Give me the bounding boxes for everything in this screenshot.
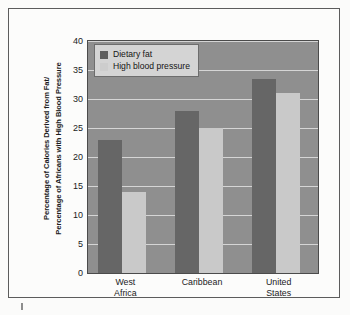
x-axis-label-line: Caribbean xyxy=(164,277,241,288)
x-axis-label-line: States xyxy=(240,288,317,299)
legend-label-dietary-fat: Dietary fat xyxy=(113,50,152,59)
y-tick-label: 30 xyxy=(61,95,83,104)
bar xyxy=(175,111,199,273)
plot-area: Dietary fat High blood pressure xyxy=(87,40,319,274)
y-tick-label: 0 xyxy=(61,269,83,278)
figure-frame: Percentage of Calories Derived from Fat/… xyxy=(8,8,340,298)
legend-item-high-blood-pressure: High blood pressure xyxy=(100,61,190,72)
bar xyxy=(98,140,122,273)
chart-legend: Dietary fat High blood pressure xyxy=(94,44,199,77)
y-tick-label: 25 xyxy=(61,124,83,133)
bar-group xyxy=(252,41,300,273)
chart-screenshot: Percentage of Calories Derived from Fat/… xyxy=(0,0,350,315)
bar xyxy=(199,128,223,273)
y-tick-label: 20 xyxy=(61,153,83,162)
x-axis-category-labels: WestAfricaCaribbeanUnitedStates xyxy=(87,277,319,305)
y-tick-label: 15 xyxy=(61,182,83,191)
bar xyxy=(252,79,276,273)
x-axis-label: Caribbean xyxy=(164,277,241,288)
y-tick-label: 35 xyxy=(61,66,83,75)
y-tick-label: 10 xyxy=(61,211,83,220)
x-axis-label-line: United xyxy=(240,277,317,288)
y-axis-title-line-1: Percentage of Calories Derived from Fat/ xyxy=(41,24,53,274)
legend-swatch-icon-high-blood-pressure xyxy=(100,63,108,71)
x-axis-label: WestAfrica xyxy=(87,277,164,299)
y-tick-label: 5 xyxy=(61,240,83,249)
bar xyxy=(122,192,146,273)
legend-item-dietary-fat: Dietary fat xyxy=(100,49,190,60)
legend-label-high-blood-pressure: High blood pressure xyxy=(113,62,190,71)
legend-swatch-icon-dietary-fat xyxy=(100,51,108,59)
registration-tick-mark xyxy=(21,303,23,310)
x-axis-label-line: Africa xyxy=(87,288,164,299)
x-axis-label: UnitedStates xyxy=(240,277,317,299)
bar xyxy=(276,93,300,273)
x-axis-label-line: West xyxy=(87,277,164,288)
y-tick-label: 40 xyxy=(61,37,83,46)
y-axis-tick-labels: 0510152025303540 xyxy=(61,34,83,279)
